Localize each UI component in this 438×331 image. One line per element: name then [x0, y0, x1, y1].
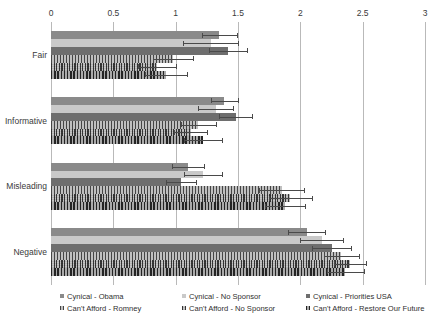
error-bar-cap — [207, 130, 208, 135]
error-bar-cap — [238, 98, 239, 103]
error-bar — [324, 256, 359, 257]
bar — [51, 121, 198, 129]
bar-group-item — [51, 163, 425, 171]
bar — [51, 31, 219, 39]
bar — [51, 268, 345, 276]
error-bar — [269, 198, 311, 199]
error-bar — [172, 167, 204, 168]
x-tick-label: 0.5 — [107, 8, 119, 18]
x-tick-label: 1 — [173, 8, 178, 18]
bar-group-item — [51, 31, 425, 39]
error-bar-cap — [259, 188, 260, 193]
category-label: Misleading — [6, 181, 47, 191]
error-bar — [198, 109, 233, 110]
error-bar — [211, 101, 238, 102]
error-bar-cap — [216, 122, 217, 127]
bar — [51, 194, 290, 202]
legend-swatch-icon — [182, 306, 186, 310]
bar — [51, 244, 332, 252]
error-bar-cap — [145, 72, 146, 77]
legend-label: Cynical - Obama — [67, 292, 124, 301]
error-bar-cap — [222, 172, 223, 177]
bar-group-item — [51, 202, 425, 210]
bar — [51, 252, 341, 260]
bar-group-item — [51, 228, 425, 236]
legend-label: Can't Afford - Romney — [67, 304, 141, 313]
legend-swatch-icon — [60, 294, 64, 298]
error-bar-cap — [300, 238, 301, 243]
bar-group-item — [51, 136, 425, 144]
bar — [51, 113, 236, 121]
legend-item[interactable]: Cynical - Obama — [60, 290, 124, 302]
bar — [51, 236, 322, 244]
error-bar-cap — [183, 41, 184, 46]
bar-group-item — [51, 236, 425, 244]
error-bar — [327, 272, 364, 273]
error-bar — [334, 264, 366, 265]
error-bar — [312, 248, 352, 249]
error-bar — [153, 59, 193, 60]
error-bar-cap — [204, 164, 205, 169]
legend-item[interactable]: Cynical - Priorities USA — [306, 290, 392, 302]
error-bar — [184, 140, 221, 141]
error-bar-cap — [364, 269, 365, 274]
bar-group-item — [51, 113, 425, 121]
error-bar-cap — [312, 246, 313, 251]
category-label: Informative — [5, 116, 47, 126]
bar — [51, 178, 181, 186]
error-bar-cap — [211, 98, 212, 103]
bar-group-item — [51, 129, 425, 137]
bar-group-item — [51, 252, 425, 260]
bar — [51, 260, 350, 268]
error-bar-cap — [193, 56, 194, 61]
error-bar-cap — [181, 122, 182, 127]
error-bar — [138, 67, 175, 68]
x-tick-label: 2 — [298, 8, 303, 18]
bar-group-item — [51, 178, 425, 186]
bar — [51, 129, 191, 137]
x-tick-label: 0 — [49, 8, 54, 18]
error-bar-cap — [269, 196, 270, 201]
x-axis-tick-labels: 00.511.522.53 — [0, 8, 438, 22]
error-bar — [183, 43, 238, 44]
error-bar-cap — [247, 48, 248, 53]
legend-item[interactable]: Can't Afford - Restore Our Future — [306, 302, 424, 314]
legend-item[interactable]: Can't Afford - No Sponsor — [182, 302, 275, 314]
legend-label: Can't Afford - Restore Our Future — [313, 304, 424, 313]
bar — [51, 202, 285, 210]
legend-swatch-icon — [306, 306, 310, 310]
bar — [51, 163, 188, 171]
x-tick-label: 3 — [423, 8, 428, 18]
error-bar-cap — [343, 238, 344, 243]
bar-group-item — [51, 55, 425, 63]
error-bar-cap — [138, 64, 139, 69]
error-bar-cap — [233, 106, 234, 111]
error-bar-cap — [312, 196, 313, 201]
error-bar-cap — [351, 246, 352, 251]
error-bar — [202, 35, 237, 36]
error-bar-cap — [153, 56, 154, 61]
bar — [51, 186, 282, 194]
bar-group-item — [51, 194, 425, 202]
error-bar-cap — [176, 64, 177, 69]
error-bar — [174, 132, 206, 133]
bar-group-item — [51, 244, 425, 252]
error-bar — [265, 206, 305, 207]
legend-label: Cynical - Priorities USA — [313, 292, 392, 301]
legend-item[interactable]: Can't Afford - Romney — [60, 302, 141, 314]
error-bar — [209, 51, 246, 52]
error-bar-cap — [327, 269, 328, 274]
error-bar — [219, 117, 251, 118]
bar-group-item — [51, 268, 425, 276]
bar-group-item — [51, 63, 425, 71]
bar — [51, 228, 307, 236]
bar-group-item — [51, 71, 425, 79]
legend-item[interactable]: Cynical - No Sponsor — [182, 290, 261, 302]
error-bar-cap — [366, 261, 367, 266]
error-bar-cap — [198, 106, 199, 111]
bar — [51, 47, 228, 55]
plot-area — [51, 22, 425, 285]
bar-group-item — [51, 47, 425, 55]
error-bar-cap — [196, 180, 197, 185]
chart-legend: Cynical - ObamaCynical - No SponsorCynic… — [60, 290, 438, 322]
